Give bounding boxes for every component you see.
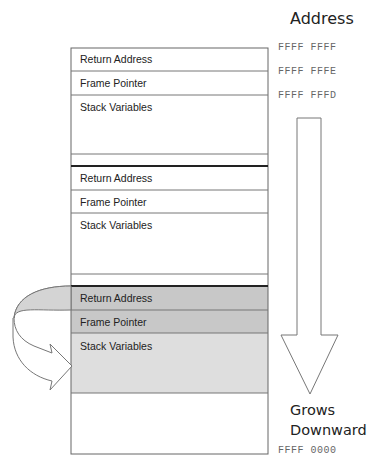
grows-downward-arrow-icon xyxy=(281,118,338,394)
frame2-stack-variables: Stack Variables xyxy=(80,219,152,231)
frame2-return-address: Return Address xyxy=(80,172,152,184)
curved-arrow-band xyxy=(14,286,71,318)
frame3-return-address: Return Address xyxy=(80,292,152,304)
address-fffffffe: FFFF FFFE xyxy=(278,66,337,77)
address-ffff0000: FFFF 0000 xyxy=(278,445,337,456)
address-title: Address xyxy=(290,9,354,28)
frame1-stack-variables: Stack Variables xyxy=(80,101,152,113)
address-fffffffd: FFFF FFFD xyxy=(278,90,337,101)
frame3-stack-variables: Stack Variables xyxy=(80,340,152,352)
address-ffffffff: FFFF FFFF xyxy=(278,42,337,53)
frame1-return-address: Return Address xyxy=(80,53,152,65)
grows-downward-label: Grows Downward xyxy=(290,400,367,440)
frame2-frame-pointer: Frame Pointer xyxy=(80,196,147,208)
grows-line2: Downward xyxy=(290,420,367,440)
frame3-frame-pointer: Frame Pointer xyxy=(80,316,147,328)
grows-line1: Grows xyxy=(290,400,367,420)
stack-diagram: Address FFFF FFFF FFFF FFFE FFFF FFFD FF… xyxy=(0,0,380,471)
frame1-frame-pointer: Frame Pointer xyxy=(80,77,147,89)
